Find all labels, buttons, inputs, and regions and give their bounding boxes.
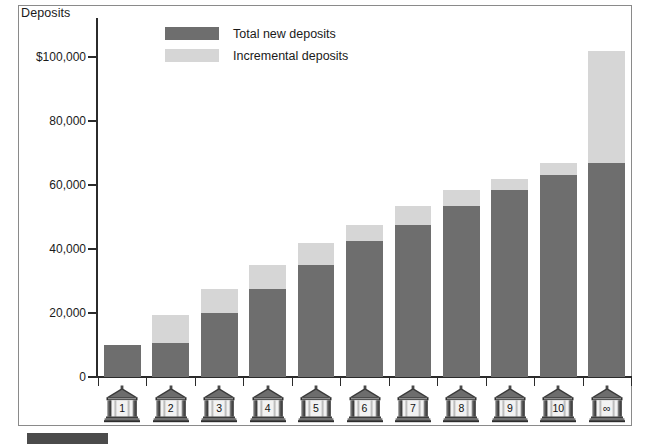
x-axis-category-label: 2 [151, 402, 191, 414]
legend-swatch-icon-total [165, 27, 219, 40]
legend-label-total: Total new deposits [233, 27, 336, 41]
x-axis-category-label: 7 [393, 402, 433, 414]
x-axis-tick-mark [534, 378, 535, 386]
x-axis-category-3: 3 [199, 385, 239, 425]
bar-segment-total-new-deposits [346, 241, 383, 377]
bar-segment-incremental-deposits [298, 243, 335, 265]
bar-column [104, 345, 141, 377]
y-axis-tick-mark [88, 56, 97, 58]
bar-segment-incremental-deposits [346, 225, 383, 241]
bar-column [443, 190, 480, 377]
legend-swatch-icon-incremental [165, 49, 219, 62]
bar-segment-total-new-deposits [491, 190, 528, 377]
x-axis-category-label: 3 [199, 402, 239, 414]
bar-column [298, 243, 335, 377]
x-axis-category-6: 6 [345, 385, 385, 425]
y-axis-tick-label-text: 40,000 [2, 242, 86, 256]
y-axis-title: Deposits [21, 6, 70, 20]
x-axis-category-label: 10 [538, 402, 578, 414]
x-axis-category-label: 1 [102, 402, 142, 414]
y-axis-tick-mark [88, 312, 97, 314]
bar-segment-total-new-deposits [540, 175, 577, 377]
bar-segment-incremental-deposits [443, 190, 480, 206]
bar-column [152, 315, 189, 377]
y-axis-tick-label-text: $100,000 [2, 50, 86, 64]
y-axis-tick-label: 60,000 [0, 178, 86, 192]
x-axis-category-label: 5 [296, 402, 336, 414]
legend-item-total-new-deposits: Total new deposits [165, 24, 348, 43]
bar-segment-total-new-deposits [249, 289, 286, 377]
x-axis-tick-mark [98, 378, 99, 386]
y-axis-tick-mark [88, 120, 97, 122]
bar-column [491, 179, 528, 377]
x-axis-category-10: 10 [538, 385, 578, 425]
bar-segment-total-new-deposits [104, 345, 141, 377]
bar-segment-total-new-deposits [201, 313, 238, 377]
bar-column [249, 265, 286, 377]
x-axis-tick-mark [243, 378, 244, 386]
bar-segment-total-new-deposits [298, 265, 335, 377]
bar-column [395, 206, 432, 377]
bar-segment-total-new-deposits [152, 343, 189, 377]
y-axis-tick-label-text: 0 [2, 370, 86, 384]
x-axis-category-1: 1 [102, 385, 142, 425]
x-axis-category-5: 5 [296, 385, 336, 425]
bar-segment-incremental-deposits [540, 163, 577, 176]
bar-segment-incremental-deposits [491, 179, 528, 190]
y-axis-tick-mark [88, 376, 97, 378]
y-axis-tick-label: $100,000 [0, 50, 86, 64]
bar-segment-incremental-deposits [395, 206, 432, 225]
bar-segment-total-new-deposits [443, 206, 480, 377]
bar-segment-incremental-deposits [152, 315, 189, 344]
x-axis-category-9: 9 [490, 385, 530, 425]
y-axis-tick-label-text: 80,000 [2, 114, 86, 128]
x-axis-tick-mark [340, 378, 341, 386]
footer-dark-block [27, 433, 108, 444]
plot-area: Deposits 020,00040,00060,00080,000$100,0… [0, 0, 645, 444]
x-axis-tick-mark [631, 378, 632, 386]
y-axis-tick-label: 80,000 [0, 114, 86, 128]
bar-column [540, 163, 577, 377]
chart-legend: Total new deposits Incremental deposits [165, 24, 348, 68]
x-axis-tick-mark [195, 378, 196, 386]
bar-segment-total-new-deposits [588, 163, 625, 377]
x-axis-category-label: 4 [248, 402, 288, 414]
bar-segment-incremental-deposits [588, 51, 625, 163]
x-axis-category-label: 8 [441, 402, 481, 414]
y-axis-tick-mark [88, 184, 97, 186]
y-axis-tick-label-text: 20,000 [2, 306, 86, 320]
x-axis-category-label: 6 [345, 402, 385, 414]
x-axis-tick-mark [486, 378, 487, 386]
x-axis-category-11: ∞ [587, 385, 627, 425]
x-axis-category-label: 9 [490, 402, 530, 414]
y-axis-tick-label: 0 [0, 370, 86, 384]
x-axis-tick-mark [389, 378, 390, 386]
x-axis-category-8: 8 [441, 385, 481, 425]
x-axis-tick-mark [583, 378, 584, 386]
x-axis-tick-mark [437, 378, 438, 386]
y-axis-tick-mark [88, 248, 97, 250]
x-axis-tick-mark [292, 378, 293, 386]
x-axis-category-4: 4 [248, 385, 288, 425]
legend-label-incremental: Incremental deposits [233, 49, 348, 63]
bar-column [588, 51, 625, 377]
bar-column [346, 225, 383, 377]
y-axis-tick-label: 20,000 [0, 306, 86, 320]
bar-segment-incremental-deposits [201, 289, 238, 313]
y-axis-line [96, 18, 98, 378]
y-axis-tick-label: 40,000 [0, 242, 86, 256]
bar-segment-incremental-deposits [249, 265, 286, 289]
bar-column [201, 289, 238, 377]
x-axis-category-7: 7 [393, 385, 433, 425]
y-axis-tick-label-text: 60,000 [2, 178, 86, 192]
x-axis-tick-mark [146, 378, 147, 386]
deposits-stacked-bar-chart-figure: Deposits 020,00040,00060,00080,000$100,0… [0, 0, 645, 444]
bar-segment-total-new-deposits [395, 225, 432, 377]
legend-item-incremental-deposits: Incremental deposits [165, 46, 348, 65]
x-axis-category-2: 2 [151, 385, 191, 425]
x-axis-category-label: ∞ [587, 402, 627, 414]
